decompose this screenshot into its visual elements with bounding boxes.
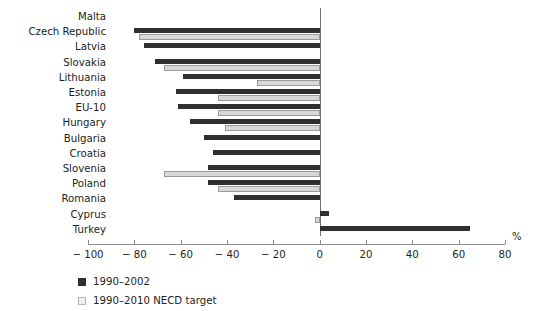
bar-series-1 [208, 165, 319, 170]
bar-series-2 [164, 65, 319, 71]
x-axis-tick-label: − 80 [122, 249, 147, 261]
x-axis-tick-label: 0 [316, 249, 322, 261]
x-axis-tick-label: 60 [452, 249, 465, 261]
bar-series-2 [218, 110, 320, 116]
x-axis-tick [505, 240, 506, 244]
bar-series-1 [204, 135, 320, 140]
legend-label-series-2: 1990–2010 NECD target [93, 295, 216, 307]
x-axis-tick [273, 240, 274, 244]
bar-series-1 [134, 28, 319, 33]
bar-series-1 [213, 150, 320, 155]
x-axis-tick [227, 240, 228, 244]
bar-series-2 [218, 95, 320, 101]
bar-series-2 [218, 186, 320, 192]
x-axis-tick-label: − 20 [261, 249, 286, 261]
bar-series-2 [164, 171, 319, 177]
x-axis-tick-label: 80 [499, 249, 512, 261]
bar-series-1 [183, 74, 320, 79]
x-axis-tick-label: 40 [406, 249, 419, 261]
bar-series-1 [176, 89, 320, 94]
x-axis-tick-label: 20 [360, 249, 373, 261]
x-axis-tick [366, 240, 367, 244]
bar-group [88, 27, 505, 41]
bar-series-1 [320, 226, 471, 231]
bar-series-1 [320, 211, 329, 216]
bar-group [88, 12, 505, 26]
bar-series-2 [225, 125, 320, 131]
bar-group [88, 149, 505, 163]
legend-item-series-1: 1990–2002 [78, 272, 216, 291]
bar-series-2 [315, 217, 320, 223]
x-axis-unit-label: % [512, 231, 522, 242]
x-axis-tick-label: − 60 [168, 249, 193, 261]
x-axis-tick [134, 240, 135, 244]
legend-swatch-dark [78, 278, 86, 286]
chart-legend: 1990–2002 1990–2010 NECD target [78, 272, 216, 310]
bar-series-1 [208, 180, 319, 185]
legend-item-series-2: 1990–2010 NECD target [78, 291, 216, 310]
bar-group [88, 88, 505, 102]
x-axis-tick-label: − 100 [72, 249, 103, 261]
bar-series-1 [190, 119, 320, 124]
bar-group [88, 194, 505, 208]
bar-group [88, 42, 505, 56]
bar-group [88, 58, 505, 72]
x-axis-tick [320, 240, 321, 244]
x-axis-tick [181, 240, 182, 244]
bar-series-1 [234, 195, 320, 200]
bar-group [88, 225, 505, 239]
bar-group [88, 210, 505, 224]
bar-group [88, 134, 505, 148]
bar-group [88, 73, 505, 87]
bar-series-1 [144, 43, 320, 48]
bar-group [88, 179, 505, 193]
bar-series-2 [257, 80, 320, 86]
bar-series-1 [178, 104, 319, 109]
x-axis-tick [459, 240, 460, 244]
legend-label-series-1: 1990–2002 [93, 276, 150, 288]
plot-area [88, 8, 505, 236]
legend-swatch-light [78, 297, 86, 305]
bar-group [88, 103, 505, 117]
x-axis-tick [412, 240, 413, 244]
bar-chart: MaltaCzech RepublicLatviaSlovakiaLithuan… [0, 0, 546, 311]
x-axis-tick [88, 240, 89, 244]
bar-group [88, 164, 505, 178]
x-axis-line: − 100− 80− 60− 40− 20020406080 [88, 244, 505, 245]
bar-group [88, 118, 505, 132]
bar-series-2 [139, 34, 320, 40]
x-axis-tick-label: − 40 [215, 249, 240, 261]
bar-series-1 [155, 59, 319, 64]
